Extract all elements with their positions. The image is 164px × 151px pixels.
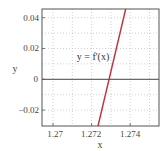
- ytick-label: −0.02: [18, 105, 39, 115]
- ytick-label: 0: [34, 74, 39, 84]
- ytick-label: 0.04: [23, 13, 39, 23]
- xtick-label: 1.27: [47, 129, 63, 139]
- xtick-label: 1.274: [120, 129, 141, 139]
- curve-annotation: y = f'(x): [77, 51, 109, 63]
- ytick-label: 0.02: [23, 43, 39, 53]
- chart: 0.04 0.02 0 −0.02 1.27 1.272 1.274 y x y…: [0, 0, 164, 151]
- y-axis-label: y: [13, 63, 18, 74]
- xtick-label: 1.272: [81, 129, 101, 139]
- x-axis-label: x: [98, 139, 103, 150]
- plot-area: [42, 9, 159, 126]
